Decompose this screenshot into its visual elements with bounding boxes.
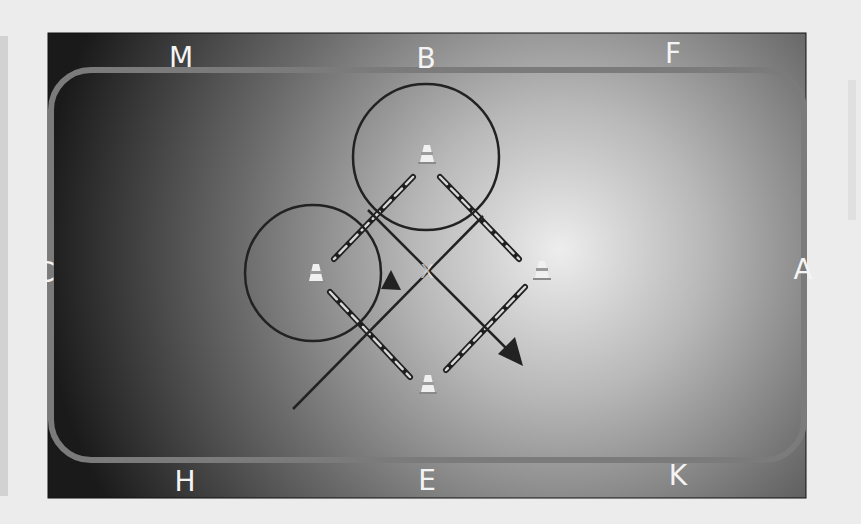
letter-h: H [174,468,195,496]
letter-a: A [793,256,812,284]
center-marker-x: X [420,259,434,283]
letter-f: F [665,40,681,68]
svg-text:X: X [420,259,434,283]
letter-m: M [169,44,193,72]
letter-b: B [416,45,435,73]
letter-e: E [418,467,436,495]
letter-k: K [669,462,687,490]
arena-diagram: X [0,0,861,524]
